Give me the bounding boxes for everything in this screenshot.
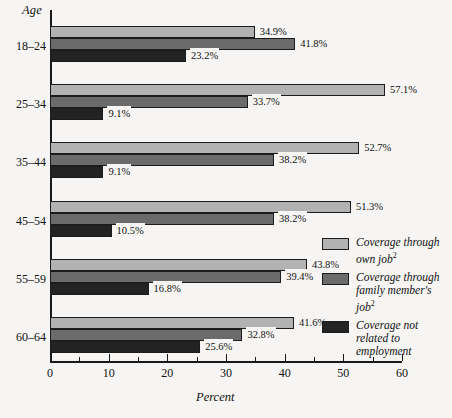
bar <box>50 166 103 178</box>
legend-swatch <box>322 321 349 333</box>
x-tick-minor <box>255 357 256 361</box>
bar-value-label: 9.1% <box>107 106 131 121</box>
bar-row: 34.9% <box>50 26 402 38</box>
category-label: 45–54 <box>0 214 46 229</box>
bar-value-label: 41.8% <box>299 36 328 51</box>
bar-value-label: 16.8% <box>153 281 182 296</box>
category-label: 55–59 <box>0 272 46 287</box>
bar-row: 38.2% <box>50 213 402 225</box>
bar <box>50 283 149 295</box>
bar-value-label: 52.7% <box>363 140 392 155</box>
x-tick-label: 40 <box>279 366 291 381</box>
bar-value-label: 25.6% <box>204 339 233 354</box>
legend-label-line: employment <box>356 345 412 357</box>
x-tick-minor <box>79 357 80 361</box>
bar-value-label: 57.1% <box>389 82 418 97</box>
x-tick-label: 10 <box>103 366 115 381</box>
x-tick-label: 30 <box>220 366 232 381</box>
bar <box>50 341 200 353</box>
category-label: 60–64 <box>0 330 46 345</box>
x-tick-label: 50 <box>337 366 349 381</box>
bar <box>50 50 186 62</box>
bar <box>50 108 103 120</box>
x-tick-major <box>226 354 227 361</box>
legend-label: Coverage throughfamily member'sjob2 <box>356 271 452 314</box>
bar <box>50 38 295 50</box>
bar <box>50 84 385 96</box>
x-tick-major <box>167 354 168 361</box>
bar-row: 38.2% <box>50 154 402 166</box>
bar-value-label: 38.2% <box>278 211 307 226</box>
legend-label-line: family member's <box>356 284 432 296</box>
bar-value-label: 39.4% <box>285 269 314 284</box>
legend-swatch <box>322 238 349 250</box>
bar-row: 33.7% <box>50 96 402 108</box>
x-tick-label: 20 <box>161 366 173 381</box>
legend-label-line: job <box>356 301 371 313</box>
bar-chart: Age 34.9%41.8%23.2%57.1%33.7%9.1%52.7%38… <box>0 0 452 418</box>
bar <box>50 213 274 225</box>
chart-legend: Coverage throughown job2Coverage through… <box>322 236 452 363</box>
legend-swatch <box>322 273 349 285</box>
x-tick-label: 0 <box>47 366 53 381</box>
bar-row: 57.1% <box>50 84 402 96</box>
legend-footnote-marker: 2 <box>393 251 397 260</box>
bar-row: 9.1% <box>50 166 402 178</box>
x-tick-major <box>285 354 286 361</box>
legend-label-line: own job <box>356 253 393 265</box>
legend-label-line: Coverage through <box>356 236 440 248</box>
legend-item: Coverage notrelated toemployment <box>322 319 452 358</box>
legend-label-line: Coverage not <box>356 319 418 331</box>
legend-label: Coverage throughown job2 <box>356 236 452 266</box>
legend-label-line: Coverage through <box>356 271 440 283</box>
bar-value-label: 38.2% <box>278 152 307 167</box>
x-tick-major <box>109 354 110 361</box>
x-tick-minor <box>138 357 139 361</box>
bar-value-label: 51.3% <box>355 199 384 214</box>
bar-row: 9.1% <box>50 108 402 120</box>
bar-row: 10.5% <box>50 225 402 237</box>
bar-value-label: 10.5% <box>116 223 145 238</box>
bar-row: 52.7% <box>50 142 402 154</box>
x-tick-minor <box>197 357 198 361</box>
bar-value-label: 23.2% <box>190 48 219 63</box>
bar-group: 51.3%38.2%10.5% <box>50 201 402 237</box>
bar-value-label: 32.8% <box>246 327 275 342</box>
bar <box>50 225 112 237</box>
category-label: 35–44 <box>0 155 46 170</box>
bar <box>50 259 307 271</box>
bar-row: 51.3% <box>50 201 402 213</box>
x-tick-minor <box>314 357 315 361</box>
bar <box>50 96 248 108</box>
legend-footnote-marker: 2 <box>371 299 375 308</box>
bar <box>50 26 255 38</box>
bar-group: 34.9%41.8%23.2% <box>50 26 402 62</box>
x-tick-major <box>50 354 51 361</box>
category-label: 25–34 <box>0 97 46 112</box>
x-tick-label: 60 <box>396 366 408 381</box>
bar-row: 23.2% <box>50 50 402 62</box>
category-label: 18–24 <box>0 39 46 54</box>
bar-value-label: 34.9% <box>259 24 288 39</box>
legend-item: Coverage throughown job2 <box>322 236 452 266</box>
bar-group: 57.1%33.7%9.1% <box>50 84 402 120</box>
bar-value-label: 33.7% <box>252 94 281 109</box>
bar <box>50 142 359 154</box>
bar-group: 52.7%38.2%9.1% <box>50 142 402 178</box>
legend-label: Coverage notrelated toemployment <box>356 319 452 358</box>
legend-item: Coverage throughfamily member'sjob2 <box>322 271 452 314</box>
x-axis-title: Percent <box>196 390 234 405</box>
y-axis-title: Age <box>22 3 42 18</box>
bar-row: 41.8% <box>50 38 402 50</box>
bar <box>50 154 274 166</box>
bar-value-label: 9.1% <box>107 164 131 179</box>
legend-label-line: related to <box>356 332 400 344</box>
